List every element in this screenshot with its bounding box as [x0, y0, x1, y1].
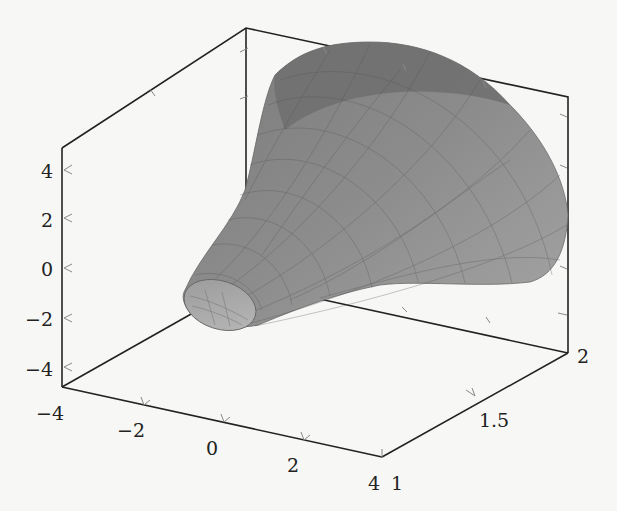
- svg-text:2: 2: [41, 209, 53, 231]
- y-axis-labels: 1 1.5 2: [391, 345, 589, 494]
- svg-text:4: 4: [41, 160, 53, 182]
- svg-text:0: 0: [41, 258, 53, 280]
- surface-plot: 4 2 0 −2 −4 −4 −2 0 2 4 1 1.5 2: [0, 0, 617, 511]
- svg-text:−4: −4: [36, 402, 64, 424]
- funnel-surface: [177, 42, 568, 339]
- svg-text:2: 2: [577, 345, 589, 367]
- svg-text:2: 2: [287, 454, 299, 476]
- svg-text:4: 4: [368, 472, 380, 494]
- svg-text:1: 1: [391, 472, 403, 494]
- svg-text:−4: −4: [25, 358, 53, 380]
- x-axis-labels: −4 −2 0 2 4: [36, 402, 380, 494]
- svg-text:1.5: 1.5: [479, 409, 509, 431]
- z-axis-labels: 4 2 0 −2 −4: [25, 160, 53, 380]
- svg-text:−2: −2: [25, 308, 53, 330]
- z-axis-ticks: [64, 165, 72, 371]
- svg-text:0: 0: [206, 437, 218, 459]
- svg-text:−2: −2: [117, 419, 145, 441]
- y-axis-ticks: [466, 388, 475, 396]
- x-axis-ticks: [141, 397, 382, 457]
